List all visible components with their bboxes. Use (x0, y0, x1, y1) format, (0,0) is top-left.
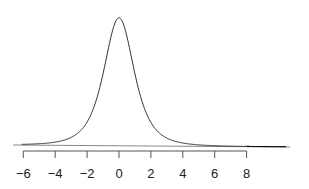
x-tick-label: 4 (179, 166, 186, 181)
x-tick-label: 2 (147, 166, 154, 181)
x-tick-label: −4 (48, 166, 63, 181)
x-tick-label: 6 (211, 166, 218, 181)
x-tick-label: −6 (16, 166, 31, 181)
x-tick-label: 0 (115, 166, 122, 181)
density-chart: −6−4−202468 (0, 0, 309, 189)
x-tick-label: −2 (80, 166, 95, 181)
x-tick-label: 8 (243, 166, 250, 181)
density-curve (22, 18, 286, 147)
x-axis-ticks: −6−4−202468 (16, 151, 250, 181)
